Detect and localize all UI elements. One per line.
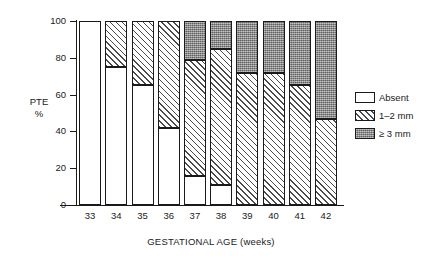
y-tick-mark — [70, 58, 76, 59]
bar-34[interactable] — [105, 21, 127, 205]
y-tick-label: 0 — [24, 200, 66, 210]
chart-figure: PTE % 100806040200 33343536373839404142 … — [0, 0, 426, 263]
y-tick-label: 40 — [24, 126, 66, 136]
legend-item-label: ≥ 3 mm — [379, 128, 411, 139]
bar-35[interactable] — [132, 21, 154, 205]
x-axis-title: GESTATIONAL AGE (weeks) — [80, 236, 342, 247]
bar-38[interactable] — [210, 21, 232, 205]
bar-40[interactable] — [263, 21, 285, 205]
diagonal-hatch-swatch-icon — [355, 110, 375, 121]
bar-segment-absent — [105, 67, 127, 205]
y-tick-mark — [70, 95, 76, 96]
bar-37[interactable] — [184, 21, 206, 205]
bar-segment-absent — [132, 85, 154, 205]
y-tick-mark — [70, 21, 76, 22]
bar-36[interactable] — [158, 21, 180, 205]
bar-segment-mid — [289, 85, 311, 205]
legend: Absent1–2 mm≥ 3 mm — [355, 92, 413, 139]
bar-segment-absent — [184, 176, 206, 205]
legend-item-label: Absent — [379, 92, 409, 103]
bar-39[interactable] — [236, 21, 258, 205]
bar-segment-dark — [184, 21, 206, 60]
y-tick-label: 60 — [24, 90, 66, 100]
bar-42[interactable] — [315, 21, 337, 205]
dark-stipple-swatch-icon — [355, 128, 375, 139]
bar-segment-mid — [236, 73, 258, 205]
y-tick-label: 80 — [24, 53, 66, 63]
y-tick-label: 20 — [24, 163, 66, 173]
bar-segment-mid — [132, 21, 154, 85]
bar-segment-dark — [315, 21, 337, 119]
bar-segment-absent — [210, 185, 232, 205]
bar-segment-absent — [158, 128, 180, 205]
bar-segment-dark — [236, 21, 258, 73]
bar-segment-mid — [210, 49, 232, 185]
bar-33[interactable] — [79, 21, 101, 205]
y-tick-label: 100 — [24, 16, 66, 26]
bar-segment-dark — [210, 21, 232, 49]
bar-segment-mid — [105, 21, 127, 67]
legend-item-label: 1–2 mm — [379, 110, 413, 121]
y-tick-mark — [70, 131, 76, 132]
bar-segment-dark — [289, 21, 311, 85]
legend-item-2[interactable]: ≥ 3 mm — [355, 128, 413, 139]
y-axis-title-line-2: % — [16, 108, 62, 120]
plot-area — [77, 21, 339, 205]
bar-segment-dark — [263, 21, 285, 73]
bar-segment-mid — [158, 21, 180, 128]
open-white-swatch-icon — [355, 92, 375, 103]
bar-segment-absent — [79, 21, 101, 205]
y-tick-mark — [70, 168, 76, 169]
x-tick-label-42: 42 — [311, 210, 341, 221]
legend-item-1[interactable]: 1–2 mm — [355, 110, 413, 121]
bar-segment-mid — [263, 73, 285, 205]
bar-segment-mid — [184, 60, 206, 176]
x-axis-line — [60, 205, 344, 206]
y-axis-title: PTE % — [16, 96, 62, 120]
legend-item-0[interactable]: Absent — [355, 92, 413, 103]
bar-segment-mid — [315, 119, 337, 205]
bar-41[interactable] — [289, 21, 311, 205]
y-tick-mark — [70, 205, 76, 206]
